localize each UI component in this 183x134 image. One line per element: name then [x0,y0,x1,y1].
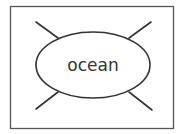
spider-map-diagram: ocean [0,0,183,134]
center-label: ocean [67,55,118,75]
